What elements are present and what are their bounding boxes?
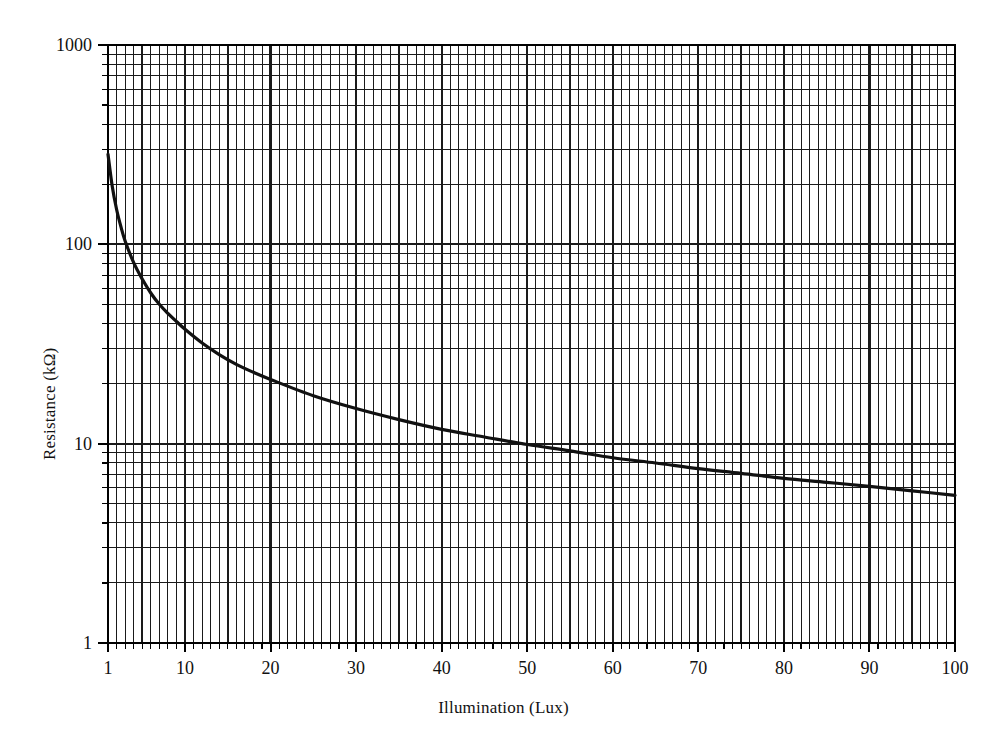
x-tick-label: 80 xyxy=(775,658,793,678)
resistance-vs-illumination-chart: 1102030405060708090100 1101001000 xyxy=(0,0,1007,750)
y-tick-label: 10 xyxy=(74,434,92,454)
x-tick-label: 40 xyxy=(433,658,451,678)
x-tick-label: 20 xyxy=(262,658,280,678)
y-tick-label: 100 xyxy=(65,234,92,254)
x-tick-label: 30 xyxy=(347,658,365,678)
x-tick-label: 70 xyxy=(689,658,707,678)
x-tick-label: 10 xyxy=(176,658,194,678)
x-tick-label: 90 xyxy=(860,658,878,678)
x-tick-label: 1 xyxy=(104,658,113,678)
x-axis-title: Illumination (Lux) xyxy=(0,698,1007,718)
y-axis-title: Resistance (kΩ) xyxy=(40,348,60,460)
x-tick-label: 50 xyxy=(518,658,536,678)
y-tick-label: 1000 xyxy=(56,35,92,55)
chart-root: 1102030405060708090100 1101001000 Resist… xyxy=(0,0,1007,750)
x-tick-label: 60 xyxy=(604,658,622,678)
y-tick-label: 1 xyxy=(83,633,92,653)
x-tick-label: 100 xyxy=(942,658,969,678)
